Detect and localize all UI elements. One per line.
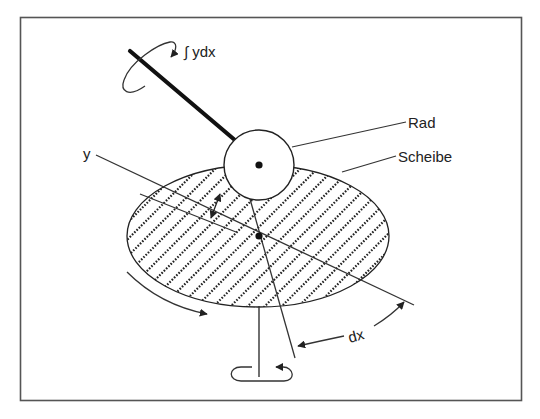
disc-label: Scheibe xyxy=(398,148,452,165)
wheel-center-dot xyxy=(255,161,262,168)
dx-arc-arrow-icon xyxy=(298,336,344,346)
wheel-leader-line xyxy=(292,122,406,147)
disc-leader-line xyxy=(342,156,396,172)
wheel-shaft xyxy=(130,51,236,141)
dx-label: dx xyxy=(346,325,366,346)
disc-shaft-rotation-icon xyxy=(231,367,292,381)
disc-center-dot xyxy=(255,232,262,239)
integrator-diagram: dx ∫ ydx Rad Scheibe y xyxy=(0,0,540,419)
wheel-label: Rad xyxy=(408,114,436,131)
y-label: y xyxy=(83,145,91,162)
integral-label: ∫ ydx xyxy=(183,43,216,61)
dx-arc-arrow-icon-2 xyxy=(374,302,404,326)
